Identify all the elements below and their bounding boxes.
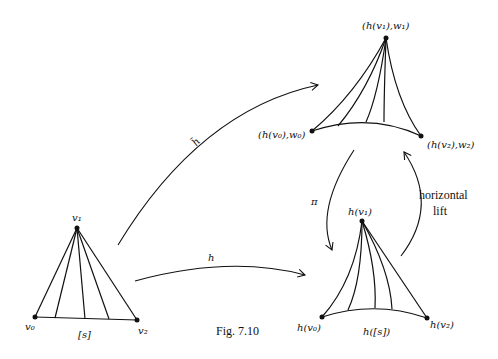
arrow-horizontal-lift [401, 152, 421, 256]
label-image-v2: h(v₂) [430, 320, 454, 330]
simplex-s-vertices [33, 226, 140, 323]
label-v2: v₂ [138, 326, 148, 336]
lifted-simplex [312, 38, 421, 136]
label-h: h [208, 253, 214, 263]
label-v0: v₀ [25, 322, 35, 332]
label-horizontal: horizontal [419, 189, 468, 201]
image-simplex-vertices [320, 219, 430, 321]
arrow-h [135, 266, 305, 281]
label-simplex-s: [s] [78, 330, 91, 340]
simplex-s [35, 228, 137, 320]
figure-caption: Fig. 7.10 [216, 325, 259, 337]
label-lift: lift [433, 205, 447, 217]
label-lifted-v0: (h(v₀),w₀) [258, 130, 305, 140]
label-lifted-v1: (h(v₁),w₁) [362, 21, 409, 31]
label-pi: π [311, 197, 318, 207]
label-image-v0: h(v₀) [297, 323, 321, 333]
label-image-v1: h(v₁) [348, 207, 372, 217]
label-image-simplex: h([s]) [363, 327, 390, 337]
arrow-pi [327, 150, 354, 250]
label-lifted-v2: (h(v₂),w₂) [427, 140, 474, 150]
label-v1: v₁ [72, 213, 82, 223]
image-simplex [322, 221, 427, 318]
arrow-h-tilde [118, 85, 318, 245]
diagram-canvas [0, 0, 498, 359]
